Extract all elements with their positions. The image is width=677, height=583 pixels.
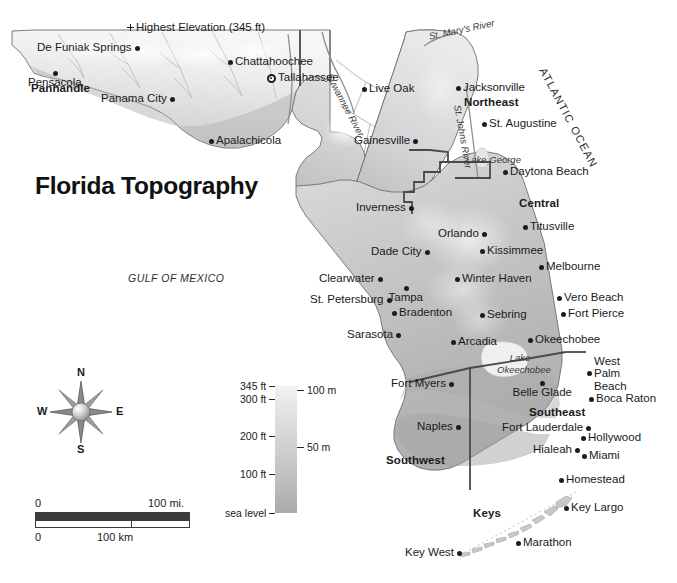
city-label-gainesville: Gainesville xyxy=(354,135,410,147)
city-label-sebring: Sebring xyxy=(487,309,527,321)
city-label-panama-city: Panama City xyxy=(101,93,167,105)
region-label-northeast: Northeast xyxy=(464,97,519,109)
elevation-tick-50-m: 50 m xyxy=(307,441,330,453)
city-label-daytona-beach: Daytona Beach xyxy=(510,166,589,178)
city-label-st-petersburg: St. Petersburg xyxy=(310,294,384,306)
city-label-key-largo: Key Largo xyxy=(571,502,623,514)
city-label-key-west: Key West xyxy=(405,547,454,559)
city-marker[interactable] xyxy=(561,312,566,317)
city-label-hialeah: Hialeah xyxy=(533,444,572,456)
elevation-tick-mark xyxy=(269,386,275,387)
city-label-miami: Miami xyxy=(589,450,620,462)
city-marker[interactable] xyxy=(457,551,462,556)
city-marker[interactable] xyxy=(209,139,214,144)
city-label-bradenton: Bradenton xyxy=(399,307,452,319)
elevation-tick-mark xyxy=(269,399,275,400)
city-marker[interactable] xyxy=(528,338,533,343)
city-marker[interactable] xyxy=(523,225,528,230)
city-marker[interactable] xyxy=(589,397,594,402)
city-marker[interactable] xyxy=(53,71,58,76)
city-marker[interactable] xyxy=(362,87,367,92)
city-label-apalachicola: Apalachicola xyxy=(216,135,281,147)
city-marker[interactable] xyxy=(449,382,454,387)
elevation-tick-100-m: 100 m xyxy=(307,384,336,396)
city-marker[interactable] xyxy=(503,170,508,175)
elevation-tick-200-ft: 200 ft xyxy=(240,430,266,442)
city-marker[interactable] xyxy=(582,454,587,459)
city-marker[interactable] xyxy=(228,60,233,65)
city-marker[interactable] xyxy=(480,249,485,254)
highest-elevation-marker[interactable] xyxy=(127,24,134,31)
elevation-tick-mark xyxy=(269,474,275,475)
florida-topography-map: Florida Topography GULF OF MEXICO ATLANT… xyxy=(0,0,677,583)
region-label-keys: Keys xyxy=(473,508,501,520)
city-marker[interactable] xyxy=(409,206,414,211)
city-marker[interactable] xyxy=(404,286,409,291)
compass-south-label: S xyxy=(77,443,84,455)
scale-km-start: 0 xyxy=(35,531,41,543)
scale-miles-start: 0 xyxy=(35,497,41,509)
city-marker[interactable] xyxy=(539,265,544,270)
city-label-winter-haven: Winter Haven xyxy=(462,273,532,285)
city-label-melbourne: Melbourne xyxy=(546,261,600,273)
city-label-kissimmee: Kissimmee xyxy=(487,245,543,257)
city-marker[interactable] xyxy=(557,296,562,301)
scale-km-end: 100 km xyxy=(97,531,133,543)
capital-label-tallahassee: Tallahassee xyxy=(278,72,339,84)
elevation-tick-300-ft: 300 ft xyxy=(240,393,266,405)
city-marker[interactable] xyxy=(456,86,461,91)
city-label-fort-pierce: Fort Pierce xyxy=(568,308,624,320)
city-label-clearwater: Clearwater xyxy=(319,273,375,285)
city-marker[interactable] xyxy=(387,298,392,303)
capital-marker[interactable] xyxy=(267,74,276,83)
region-label-southeast: Southeast xyxy=(529,407,586,419)
city-marker[interactable] xyxy=(425,250,430,255)
city-marker[interactable] xyxy=(456,425,461,430)
elevation-tick-100-ft: 100 ft xyxy=(240,468,266,480)
city-marker[interactable] xyxy=(170,97,175,102)
city-marker[interactable] xyxy=(482,122,487,127)
elevation-tick-mark xyxy=(269,436,275,437)
compass-west-label: W xyxy=(37,405,47,417)
city-label-homestead: Homestead xyxy=(566,474,625,486)
city-marker[interactable] xyxy=(581,436,586,441)
city-marker[interactable] xyxy=(396,333,401,338)
city-marker[interactable] xyxy=(586,426,591,431)
city-label-dade-city: Dade City xyxy=(371,246,422,258)
city-marker[interactable] xyxy=(480,313,485,318)
city-label-naples: Naples xyxy=(417,421,453,433)
compass-east-label: E xyxy=(116,405,123,417)
city-label-vero-beach: Vero Beach xyxy=(564,292,623,304)
city-marker[interactable] xyxy=(564,506,569,511)
water-label-lake-okeechobee: Lake Okeechobee xyxy=(497,352,543,376)
city-marker[interactable] xyxy=(559,478,564,483)
city-label-fort-lauderdale: Fort Lauderdale xyxy=(502,422,583,434)
city-label-pensacola: Pensacola xyxy=(28,77,82,89)
city-marker[interactable] xyxy=(135,46,140,51)
city-marker[interactable] xyxy=(413,139,418,144)
city-label-fort-myers: Fort Myers xyxy=(391,378,446,390)
city-label-jacksonville: Jacksonville xyxy=(463,82,525,94)
city-marker[interactable] xyxy=(451,340,456,345)
city-marker[interactable] xyxy=(455,277,460,282)
city-label-chattahoochee: Chattahoochee xyxy=(235,56,313,68)
city-marker[interactable] xyxy=(575,448,580,453)
city-label-sarasota: Sarasota xyxy=(347,329,393,341)
elevation-tick-mark xyxy=(269,513,275,514)
city-label-inverness: Inverness xyxy=(356,202,406,214)
city-marker[interactable] xyxy=(378,277,383,282)
city-label-belle-glade: Belle Glade xyxy=(513,387,572,399)
city-marker[interactable] xyxy=(587,371,592,376)
scale-bar-miles xyxy=(35,512,190,520)
city-marker[interactable] xyxy=(516,541,521,546)
city-label-de-funiak-springs: De Funiak Springs xyxy=(37,42,132,54)
region-label-central: Central xyxy=(519,198,559,210)
scale-miles-end: 100 mi. xyxy=(148,497,184,509)
scale-bar-km xyxy=(35,520,190,528)
water-label-lake-george: Lake George xyxy=(466,155,521,165)
city-marker[interactable] xyxy=(540,381,545,386)
city-marker[interactable] xyxy=(392,311,397,316)
compass-rose-graphic xyxy=(48,379,114,445)
compass-north-label: N xyxy=(77,366,85,378)
city-marker[interactable] xyxy=(482,232,487,237)
